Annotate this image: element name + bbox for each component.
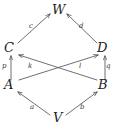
edge-label-b: b [80, 104, 84, 111]
edge-label-l: l [79, 63, 81, 70]
node-label-V: V [53, 111, 62, 124]
edge-label-q: q [106, 63, 110, 70]
diagram-edges-canvas [0, 0, 115, 128]
edge-label-p: p [2, 63, 6, 70]
node-label-B: B [98, 78, 108, 91]
edge-arrow-c [18, 14, 50, 43]
edge-label-c: c [29, 23, 33, 30]
node-label-D: D [97, 41, 107, 54]
node-label-A: A [4, 78, 13, 91]
node-label-W: W [52, 3, 65, 16]
edge-label-d: d [79, 23, 83, 30]
commutative-diagram: W C D A B V c d p q k l a b [0, 0, 115, 128]
node-label-C: C [4, 41, 14, 54]
edge-label-a: a [30, 104, 34, 111]
edge-label-k: k [28, 63, 32, 70]
